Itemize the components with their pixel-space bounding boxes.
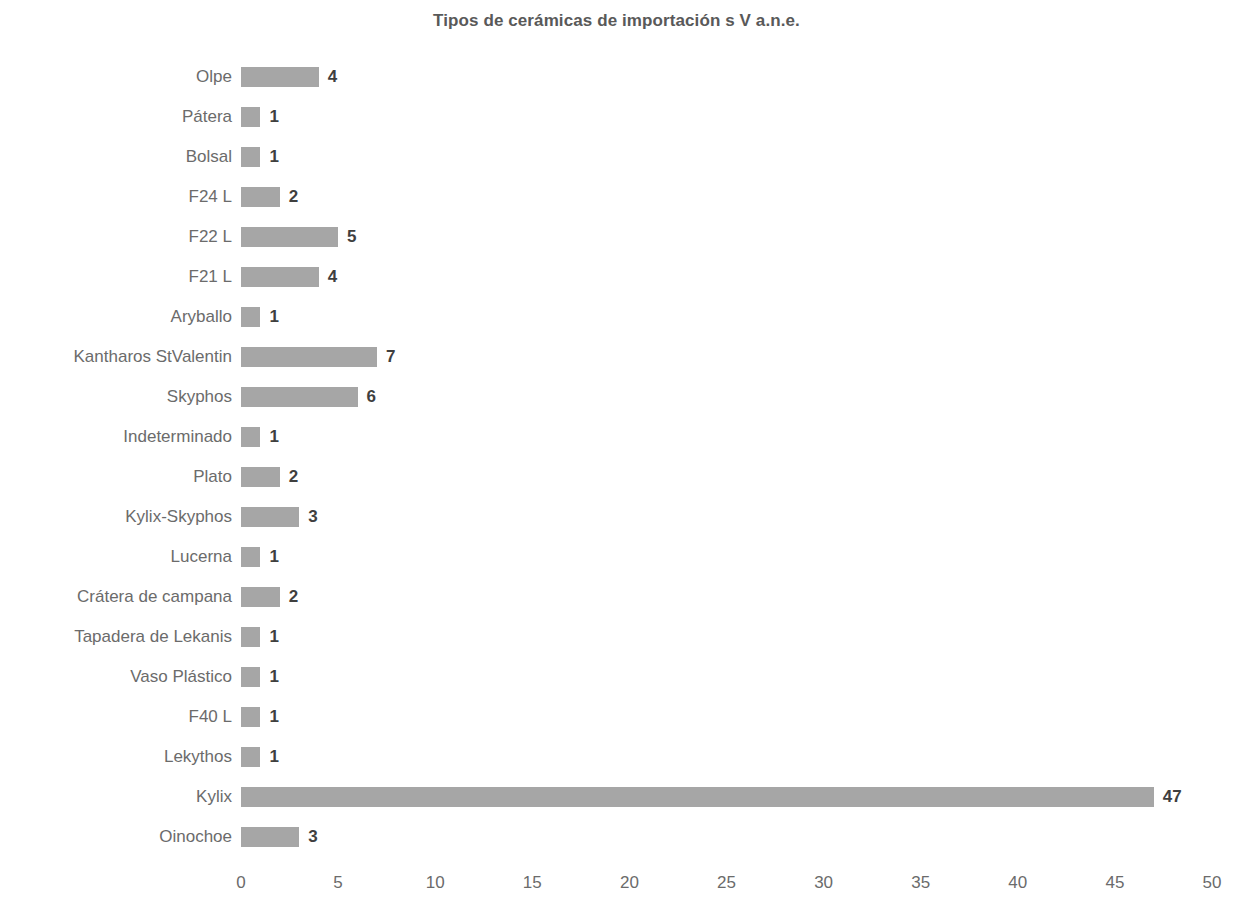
bar-value-label: 6 (367, 387, 376, 407)
bar-value-label: 1 (269, 747, 278, 767)
bar-row: F40 L1 (0, 697, 1233, 737)
x-axis-tick-label: 35 (911, 872, 930, 894)
category-label: Crátera de campana (0, 577, 232, 617)
bar[interactable] (241, 707, 260, 727)
bar[interactable] (241, 267, 319, 287)
x-axis-tick-label: 5 (333, 872, 342, 894)
category-label: F21 L (0, 257, 232, 297)
x-axis-tick-label: 10 (426, 872, 445, 894)
bar-value-label: 2 (289, 187, 298, 207)
bar-row: F22 L5 (0, 217, 1233, 257)
bar[interactable] (241, 507, 299, 527)
bar-row: F24 L2 (0, 177, 1233, 217)
category-label: Kylix (0, 777, 232, 817)
bar-group: 3 (241, 827, 318, 847)
x-axis-tick-label: 40 (1008, 872, 1027, 894)
bar-group: 2 (241, 587, 298, 607)
category-label: F24 L (0, 177, 232, 217)
category-label: Oinochoe (0, 817, 232, 857)
bar-row: Indeterminado1 (0, 417, 1233, 457)
bar-row: Kantharos StValentin7 (0, 337, 1233, 377)
bar-group: 2 (241, 467, 298, 487)
category-label: F22 L (0, 217, 232, 257)
bar[interactable] (241, 747, 260, 767)
bar-group: 1 (241, 307, 279, 327)
category-label: Kylix-Skyphos (0, 497, 232, 537)
bar-value-label: 1 (269, 427, 278, 447)
bar-value-label: 3 (308, 827, 317, 847)
bar-row: Skyphos6 (0, 377, 1233, 417)
bar-group: 4 (241, 267, 337, 287)
bar-group: 2 (241, 187, 298, 207)
bar-value-label: 1 (269, 307, 278, 327)
bar-row: F21 L4 (0, 257, 1233, 297)
category-label: Bolsal (0, 137, 232, 177)
category-label: Vaso Plástico (0, 657, 232, 697)
bar-group: 4 (241, 67, 337, 87)
bar[interactable] (241, 187, 280, 207)
bar-group: 1 (241, 547, 279, 567)
x-axis: 05101520253035404550 (0, 872, 1233, 903)
bar-row: Aryballo1 (0, 297, 1233, 337)
bar-group: 1 (241, 107, 279, 127)
bar-value-label: 1 (269, 707, 278, 727)
bar-group: 3 (241, 507, 318, 527)
bar[interactable] (241, 827, 299, 847)
bar[interactable] (241, 67, 319, 87)
bar-value-label: 1 (269, 107, 278, 127)
bar[interactable] (241, 547, 260, 567)
bar-value-label: 1 (269, 667, 278, 687)
category-label: Lekythos (0, 737, 232, 777)
category-label: Plato (0, 457, 232, 497)
bar-value-label: 2 (289, 587, 298, 607)
category-label: Kantharos StValentin (0, 337, 232, 377)
bar-row: Vaso Plástico1 (0, 657, 1233, 697)
x-axis-tick-label: 50 (1203, 872, 1222, 894)
bar[interactable] (241, 427, 260, 447)
bar[interactable] (241, 307, 260, 327)
bar-row: Olpe4 (0, 57, 1233, 97)
bar-value-label: 1 (269, 147, 278, 167)
chart-title: Tipos de cerámicas de importación s V a.… (0, 11, 1233, 31)
bar-group: 1 (241, 747, 279, 767)
category-label: Pátera (0, 97, 232, 137)
bar-row: Crátera de campana2 (0, 577, 1233, 617)
bar[interactable] (241, 667, 260, 687)
x-axis-tick-label: 25 (717, 872, 736, 894)
bar[interactable] (241, 787, 1154, 807)
bar-group: 47 (241, 787, 1182, 807)
bar[interactable] (241, 467, 280, 487)
bar-row: Oinochoe3 (0, 817, 1233, 857)
bar-group: 6 (241, 387, 376, 407)
bar-value-label: 1 (269, 547, 278, 567)
bar-row: Pátera1 (0, 97, 1233, 137)
x-axis-tick-label: 45 (1105, 872, 1124, 894)
bar-chart-figure: Tipos de cerámicas de importación s V a.… (0, 0, 1233, 903)
bar-group: 1 (241, 667, 279, 687)
bar[interactable] (241, 147, 260, 167)
x-axis-tick-label: 20 (620, 872, 639, 894)
category-label: Olpe (0, 57, 232, 97)
bar-row: Lekythos1 (0, 737, 1233, 777)
bar-value-label: 1 (269, 627, 278, 647)
bar-group: 1 (241, 707, 279, 727)
bar-row: Kylix47 (0, 777, 1233, 817)
bar-value-label: 5 (347, 227, 356, 247)
x-axis-tick-label: 0 (236, 872, 245, 894)
bar-value-label: 7 (386, 347, 395, 367)
bar[interactable] (241, 227, 338, 247)
bar-row: Plato2 (0, 457, 1233, 497)
category-label: Aryballo (0, 297, 232, 337)
bar-value-label: 4 (328, 267, 337, 287)
bar[interactable] (241, 107, 260, 127)
x-axis-tick-label: 15 (523, 872, 542, 894)
category-label: Tapadera de Lekanis (0, 617, 232, 657)
bar[interactable] (241, 387, 358, 407)
bar-value-label: 3 (308, 507, 317, 527)
bar[interactable] (241, 627, 260, 647)
bar[interactable] (241, 587, 280, 607)
category-label: F40 L (0, 697, 232, 737)
bar-value-label: 2 (289, 467, 298, 487)
bar-row: Tapadera de Lekanis1 (0, 617, 1233, 657)
bar[interactable] (241, 347, 377, 367)
